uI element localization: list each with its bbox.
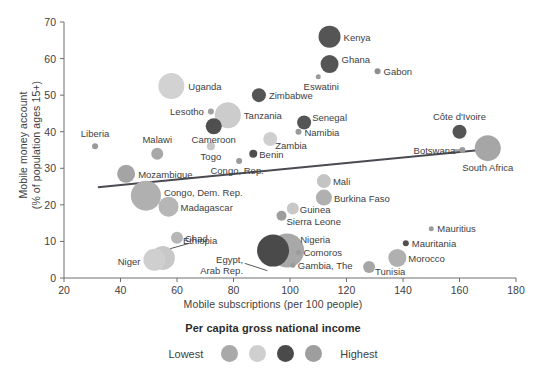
bubble-label: Sierra Leone: [287, 216, 341, 227]
bubble-cameroon[interactable]: [206, 118, 222, 134]
x-tick-label: 120: [338, 284, 356, 296]
y-tick-label: 40: [44, 126, 56, 138]
bubble-label: Togo: [201, 151, 222, 162]
bubble-chad[interactable]: [171, 232, 183, 244]
bubble-zimbabwe[interactable]: [252, 88, 266, 102]
bubble-label: Tanzania: [244, 110, 283, 121]
legend-swatches: [221, 345, 322, 362]
bubble-label: Kenya: [344, 32, 372, 43]
bubble-label: Liberia: [81, 128, 110, 139]
y-tick-label: 50: [44, 89, 56, 101]
bubble-label: Ghana: [342, 54, 371, 65]
bubble-tunisia[interactable]: [363, 261, 375, 273]
bubble-label: Uganda: [188, 81, 222, 92]
bubble-gabon[interactable]: [375, 68, 381, 74]
bubble-c-te-d-ivoire[interactable]: [453, 125, 467, 139]
bubble-congo-rep[interactable]: [236, 158, 242, 164]
bubble-madagascar[interactable]: [159, 197, 179, 217]
bubble-label: South Africa: [462, 162, 514, 173]
bubble-liberia[interactable]: [92, 143, 98, 149]
legend: Lowest Highest: [0, 345, 546, 362]
bubble-gambia-the[interactable]: [290, 263, 295, 268]
bubble-label: Niger: [118, 256, 141, 267]
bubble-label: Congo, Rep.: [210, 165, 263, 176]
bubble-label: Namibia: [304, 127, 340, 138]
bubble-label: Gambia, The: [298, 260, 353, 271]
bubble-guinea[interactable]: [287, 203, 299, 215]
y-tick-label: 10: [44, 235, 56, 247]
bubble-chart: 20406080100120140160180010203040506070 K…: [0, 0, 546, 378]
bubble-lesotho[interactable]: [208, 109, 214, 115]
bubble-label: Lesotho: [170, 106, 204, 117]
legend-swatch-2: [277, 345, 294, 362]
bubble-comoros[interactable]: [296, 250, 301, 255]
bubble-label: Nigeria: [300, 234, 331, 245]
bubble-label: Madagascar: [181, 202, 233, 213]
bubble-label: Tunisia: [375, 266, 406, 277]
bubble-botswana[interactable]: [459, 147, 465, 153]
bubble-label: Zimbabwe: [269, 90, 313, 101]
legend-title: Per capita gross national income: [0, 322, 546, 334]
x-tick-label: 160: [451, 284, 469, 296]
bubble-label: Côte d'Ivoire: [433, 111, 486, 122]
bubble-niger[interactable]: [143, 249, 165, 271]
bubble-sierra-leone[interactable]: [277, 211, 287, 221]
legend-swatch-3: [305, 345, 322, 362]
legend-lowest-label: Lowest: [168, 348, 203, 360]
bubble-south-africa[interactable]: [475, 135, 501, 161]
bubble-ghana[interactable]: [321, 55, 339, 73]
bubble-label: Malawi: [142, 134, 172, 145]
bubble-label: Benin: [259, 149, 283, 160]
legend-swatch-1: [249, 345, 266, 362]
y-tick-label: 0: [50, 272, 56, 284]
bubble-uganda[interactable]: [158, 73, 184, 99]
x-tick-label: 80: [228, 284, 240, 296]
y-tick-label: 60: [44, 53, 56, 65]
bubble-congo-dem-rep[interactable]: [131, 181, 161, 211]
bubble-label: Congo, Dem. Rep.: [164, 187, 243, 198]
y-tick-label: 20: [44, 199, 56, 211]
x-tick-label: 140: [394, 284, 412, 296]
bubble-mauritania[interactable]: [403, 240, 409, 246]
bubble-label: Mali: [333, 176, 350, 187]
x-tick-label: 40: [115, 284, 127, 296]
bubble-label: Ethiopia: [183, 235, 218, 246]
bubble-mauritius[interactable]: [429, 226, 434, 231]
bubble-label: Senegal: [312, 112, 347, 123]
bubble-malawi[interactable]: [151, 148, 163, 160]
x-tick-label: 20: [58, 284, 70, 296]
bubble-label: Mozambique: [138, 169, 192, 180]
bubble-label: Guinea: [300, 204, 331, 215]
bubble-label: Gabon: [384, 66, 413, 77]
x-tick-label: 60: [171, 284, 183, 296]
y-tick-label: 30: [44, 162, 56, 174]
bubble-label: Mauritania: [412, 238, 457, 249]
x-tick-label: 100: [281, 284, 299, 296]
x-axis-title: Mobile subscriptions (per 100 people): [0, 298, 546, 311]
legend-swatch-0: [221, 345, 238, 362]
bubble-eswatini[interactable]: [316, 74, 321, 79]
bubble-label: Botswana: [414, 145, 456, 156]
bubble-egypt-arab-rep[interactable]: [257, 235, 289, 267]
bubble-label: Cameroon: [192, 134, 236, 145]
x-tick-label: 180: [507, 284, 525, 296]
bubble-mozambique[interactable]: [117, 165, 135, 183]
bubble-morocco[interactable]: [388, 249, 406, 267]
bubble-label: Egypt,Arab Rep.: [200, 254, 243, 276]
bubble-kenya[interactable]: [319, 26, 341, 48]
bubble-label: Morocco: [408, 253, 444, 264]
bubble-label: Mauritius: [437, 223, 476, 234]
bubble-benin[interactable]: [249, 150, 257, 158]
bubble-mali[interactable]: [317, 174, 331, 188]
y-axis-title: Mobile money account (% of population ag…: [17, 55, 43, 235]
legend-highest-label: Highest: [340, 348, 377, 360]
y-tick-label: 70: [44, 16, 56, 28]
bubble-label: Comoros: [303, 247, 342, 258]
bubble-label: Burkina Faso: [334, 193, 390, 204]
bubble-namibia[interactable]: [295, 129, 301, 135]
